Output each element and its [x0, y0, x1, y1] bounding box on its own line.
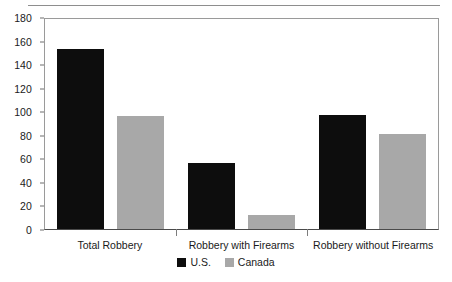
x-axis-label: Total Robbery	[44, 237, 176, 253]
bar-us-robbery-with-firearms	[188, 163, 235, 229]
legend-swatch-icon	[177, 258, 186, 267]
bar-group	[45, 19, 176, 229]
legend-swatch-icon	[225, 258, 234, 267]
x-axis-label: Robbery with Firearms	[176, 237, 308, 253]
y-axis-tick-label: 0	[26, 225, 32, 236]
plot-area: 020406080100120140160180	[0, 18, 452, 234]
bar-canada-total-robbery	[117, 116, 164, 229]
y-axis-tick-label: 60	[20, 154, 32, 165]
x-axis-label: Robbery without Firearms	[307, 237, 439, 253]
bar-groups	[45, 19, 438, 229]
y-axis-tick-label: 140	[14, 60, 32, 71]
legend-item: U.S.	[177, 257, 210, 268]
bar-us-robbery-without-firearms	[319, 115, 366, 229]
legend-label: Canada	[238, 257, 275, 268]
y-axis-tick-label: 120	[14, 83, 32, 94]
y-axis-tick-label: 80	[20, 131, 32, 142]
plot-frame	[44, 18, 439, 230]
x-axis-category-labels: Total RobberyRobbery with FirearmsRobber…	[44, 237, 439, 253]
y-axis-tick-label: 20	[20, 201, 32, 212]
x-axis-group-separator	[176, 229, 177, 236]
top-rule-divider	[28, 5, 440, 6]
y-axis-tick-label: 40	[20, 178, 32, 189]
bar-group	[176, 19, 307, 229]
y-axis-tick-label: 180	[14, 13, 32, 24]
chart-legend: U.S.Canada	[0, 257, 452, 268]
y-axis-tick-label: 100	[14, 107, 32, 118]
x-axis-group-separator	[307, 229, 308, 236]
bar-canada-robbery-without-firearms	[379, 134, 426, 229]
bar-us-total-robbery	[57, 49, 104, 229]
bar-canada-robbery-with-firearms	[248, 215, 295, 229]
bar-group	[307, 19, 438, 229]
legend-label: U.S.	[190, 257, 210, 268]
y-axis-tick-label: 160	[14, 36, 32, 47]
y-axis: 020406080100120140160180	[0, 18, 40, 230]
bar-chart-figure: 020406080100120140160180 Total RobberyRo…	[0, 0, 452, 282]
legend-item: Canada	[225, 257, 275, 268]
